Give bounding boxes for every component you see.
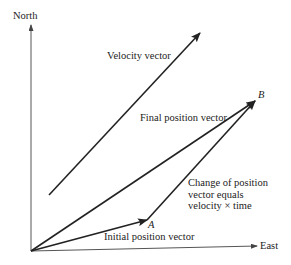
point-a-label: A [148,219,154,231]
change-of-position-label-line3: velocity × time [188,200,252,212]
east-axis [31,246,257,251]
final-position-vector-label: Final position vector [140,112,227,124]
vector-diagram [0,0,291,265]
north-axis-label: North [13,10,38,22]
change-of-position-label-line1: Change of position [188,177,268,189]
east-axis-label: East [260,240,278,252]
initial-position-vector-label: Initial position vector [104,231,194,243]
velocity-vector-label: Velocity vector [107,50,171,62]
point-b-label: B [258,89,264,101]
